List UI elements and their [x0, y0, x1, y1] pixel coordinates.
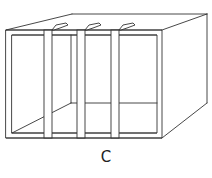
- right-face: [162, 14, 207, 138]
- top-face: [6, 14, 207, 30]
- strap-clip-icon: [119, 23, 135, 30]
- strap-clip-icon: [85, 23, 101, 30]
- figure-caption: C: [0, 148, 212, 166]
- strap-clip-icon: [52, 23, 68, 30]
- strap-3: [111, 23, 135, 138]
- strap-2: [77, 23, 101, 138]
- strap-1: [44, 23, 68, 138]
